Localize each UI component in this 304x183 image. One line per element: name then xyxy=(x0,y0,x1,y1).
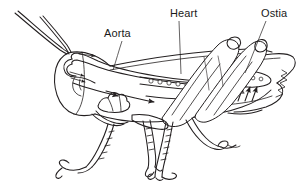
heart-ostium-circle xyxy=(158,80,162,84)
heart-ostium-circle xyxy=(167,81,171,85)
aorta-leader-line xyxy=(113,41,122,70)
mid-leg xyxy=(132,115,168,177)
label-aorta: Aorta xyxy=(104,27,131,39)
heart-ostium-circle xyxy=(149,79,153,83)
diagram-linework: .s { fill:none; stroke:#231f20; stroke-w… xyxy=(0,0,304,183)
ostia-circle xyxy=(259,77,263,81)
label-heart: Heart xyxy=(170,7,197,19)
fore-leg xyxy=(56,111,128,178)
antennae-group xyxy=(15,11,71,54)
heart-leader-line xyxy=(179,21,181,74)
mid-right-leg xyxy=(186,118,240,149)
label-ostia: Ostia xyxy=(261,7,287,19)
grasshopper-circulatory-diagram: .s { fill:none; stroke:#231f20; stroke-w… xyxy=(0,0,304,183)
heart-ostium-circle xyxy=(176,82,180,86)
